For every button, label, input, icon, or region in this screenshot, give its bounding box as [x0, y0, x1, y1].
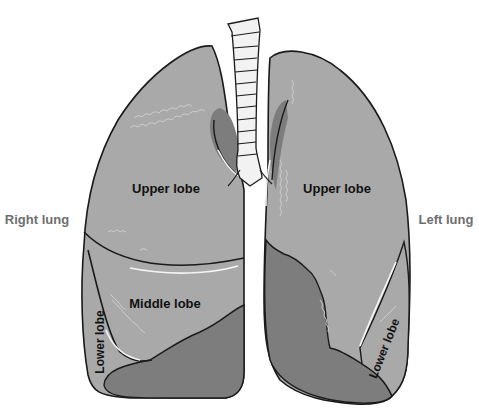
left-lung-label: Left lung [419, 212, 474, 227]
right-middle-lobe-label: Middle lobe [129, 296, 201, 311]
left-upper-lobe-label: Upper lobe [303, 181, 371, 196]
lungs-diagram: Right lung Left lung Upper lobe Middle l… [0, 0, 479, 416]
right-lower-lobe-label: Lower lobe [93, 310, 107, 374]
right-lung-label: Right lung [5, 212, 69, 227]
right-upper-lobe-label: Upper lobe [132, 181, 200, 196]
